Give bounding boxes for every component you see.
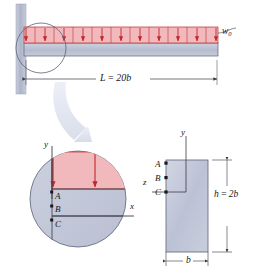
load-label: w0 <box>222 27 232 37</box>
detail-x-axis-label: x <box>130 202 134 211</box>
beam-body <box>24 43 218 56</box>
beam-figure <box>0 0 254 277</box>
section-point-c-label: C <box>155 188 161 197</box>
section-point-a-label: A <box>155 160 161 169</box>
cross-section-view <box>152 136 232 266</box>
detail-point-b-label: B <box>55 205 61 214</box>
section-z-axis-label: z <box>143 178 147 187</box>
section-y-axis-label: y <box>181 128 185 137</box>
distributed-load <box>24 27 236 43</box>
detail-point-a-label: A <box>55 192 61 201</box>
height-dimension <box>212 160 232 252</box>
detail-y-axis-label: y <box>44 140 48 149</box>
section-height-label: h = 2b <box>214 190 238 200</box>
detail-view <box>30 146 134 247</box>
callout-arrow <box>53 82 92 142</box>
span-label: L = 20b <box>100 73 131 83</box>
section-point-b-label: B <box>155 174 161 183</box>
detail-point-c-label: C <box>55 220 61 229</box>
section-width-label: b <box>186 256 191 266</box>
